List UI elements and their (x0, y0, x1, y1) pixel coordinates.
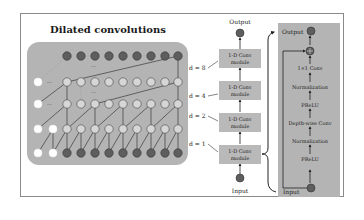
module-label: 1-D Conv (228, 84, 252, 90)
dilated-convolutions-panel: Dilated convolutions (27, 24, 188, 165)
module-label: 1-D Conv (228, 116, 252, 122)
stack-output-node (236, 29, 244, 37)
conv-module-stack: Output 1-D Conv module 1-D Conv module 1… (189, 18, 261, 195)
module-label: module (231, 91, 250, 97)
layer-label: PReLU (301, 156, 318, 162)
module-detail-panel: Output 1×1 Conv Normalization PReLU Dept… (278, 23, 340, 197)
conv-module-d2: 1-D Conv module (219, 113, 261, 132)
layer-label: Normalization (292, 84, 329, 90)
stack-input-node (236, 174, 244, 182)
conv-module-d1: 1-D Conv module (219, 145, 261, 164)
module-label: 1-D Conv (228, 52, 252, 58)
module-label: module (231, 59, 250, 65)
dilation-label: d = 8 (189, 64, 206, 71)
detail-output-label: Output (282, 28, 304, 36)
layer-label: Normalization (292, 138, 329, 144)
dilation-label: d = 4 (189, 92, 206, 99)
ellipsis: ··· (91, 63, 96, 69)
module-label: module (231, 123, 250, 129)
output-node-row (63, 52, 182, 60)
layer-label: PReLU (301, 102, 318, 108)
dilation-label: d = 2 (189, 112, 206, 119)
dilation-label: d = 1 (189, 140, 206, 147)
layer-label: Depth-wise Conv (289, 120, 332, 127)
panel-title: Dilated convolutions (50, 24, 166, 35)
module-label: module (231, 155, 250, 161)
ellipsis: ··· (47, 101, 52, 107)
stack-input-label: Input (232, 187, 249, 195)
expansion-brace (262, 32, 276, 192)
module-label: 1-D Conv (228, 148, 252, 154)
ellipsis: ··· (47, 79, 52, 85)
detail-input-node (307, 184, 315, 192)
dilation-labels: d = 8 d = 4 d = 2 d = 1 (189, 61, 218, 152)
layer-label: 1×1 Conv (297, 65, 322, 71)
conv-module-d8: 1-D Conv module (219, 49, 261, 68)
detail-input-label: Input (283, 188, 300, 196)
stack-output-label: Output (229, 18, 251, 26)
conv-module-d4: 1-D Conv module (219, 81, 261, 100)
ellipsis: ··· (91, 89, 96, 95)
diagram-canvas: Dilated convolutions (0, 0, 364, 220)
detail-output-node (307, 27, 315, 35)
